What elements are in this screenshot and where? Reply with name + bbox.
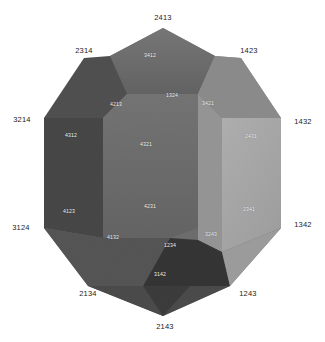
outer-vertex-label: 1423 [240,47,258,55]
inner-face-label: 4132 [107,235,119,240]
inner-face-label: 3142 [154,272,166,277]
inner-face-label: 1324 [166,93,178,98]
inner-face-label: 3243 [205,232,217,237]
inner-face-label: 4231 [144,204,156,209]
polytope-canvas [0,0,325,342]
outer-vertex-label: 2143 [156,323,174,331]
inner-face-label: 2431 [245,134,257,139]
outer-vertex-label: 1342 [294,221,312,229]
inner-face-label: 1234 [164,243,176,248]
outer-vertex-label: 1432 [294,118,312,126]
inner-face-label: 3412 [144,53,156,58]
inner-face-label: 4321 [140,142,152,147]
inner-face-label: 4123 [63,209,75,214]
outer-vertex-label: 2413 [154,14,172,22]
outer-vertex-label: 2134 [79,290,97,298]
inner-face-label: 4312 [65,133,77,138]
outer-vertex-label: 1243 [239,290,257,298]
permutohedron-figure: 2413231414233214143231241342213412432143… [0,0,325,342]
inner-face-label: 3421 [202,101,214,106]
inner-face-label: 4213 [110,102,122,107]
outer-vertex-label: 3214 [13,116,31,124]
outer-vertex-label: 3124 [12,224,30,232]
outer-vertex-label: 2314 [75,47,93,55]
inner-face-label: 2341 [243,207,255,212]
